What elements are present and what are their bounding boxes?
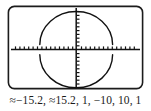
window-settings-caption: ≈−15.2, ≈15.2, 1, −10, 10, 1: [0, 91, 151, 109]
graph-canvas: [7, 5, 144, 90]
calculator-screen: [7, 5, 144, 90]
calculator-figure: ≈−15.2, ≈15.2, 1, −10, 10, 1: [0, 0, 151, 111]
